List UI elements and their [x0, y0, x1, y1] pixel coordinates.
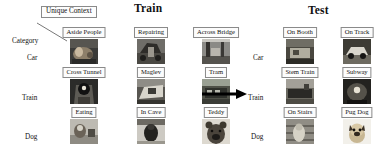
- dog-pug-dog-photo[interactable]: [343, 119, 371, 144]
- train-cell-label: Cross Tunnel: [63, 67, 106, 78]
- car-on-track-photo[interactable]: [343, 39, 371, 64]
- train-maglev-photo[interactable]: [137, 79, 165, 104]
- test-row-label-dog: Dog: [251, 133, 263, 141]
- train-section-title: Train: [134, 2, 162, 14]
- train-cell-label: Maglev: [137, 67, 165, 78]
- test-cell-label: Stem Train: [281, 67, 318, 78]
- train-subway-photo[interactable]: [343, 79, 371, 104]
- dog-teddy-photo[interactable]: [202, 119, 230, 144]
- test-row-label-car: Car: [253, 54, 263, 62]
- test-cell-label: On Track: [341, 27, 374, 38]
- train-cell-label: Tram: [205, 67, 227, 78]
- train-cell-label: In Cave: [137, 107, 166, 118]
- train-cell-label: Aside People: [63, 27, 106, 38]
- car-repairing-photo[interactable]: [137, 39, 165, 64]
- test-cell-label: Pug Dog: [341, 107, 372, 118]
- train-cell-label: Across Bridge: [193, 27, 239, 38]
- train-cell-label: Eating: [71, 107, 96, 118]
- train-row-label-dog: Dog: [25, 133, 37, 141]
- figure-canvas: Train Test Unique Context Category Car T…: [0, 0, 383, 163]
- train-cross-tunnel-photo[interactable]: [70, 79, 98, 104]
- test-section-title: Test: [308, 4, 329, 16]
- train-cell-label: Teddy: [204, 107, 228, 118]
- test-cell-label: On Booth: [283, 27, 317, 38]
- car-aside-people-photo[interactable]: [70, 39, 98, 64]
- train-cell-label: Repairing: [134, 27, 168, 38]
- test-cell-label: Subway: [342, 67, 371, 78]
- train-to-test-arrow: [202, 88, 248, 100]
- dog-eating-photo[interactable]: [70, 119, 98, 144]
- test-cell-label: On Stairs: [284, 107, 317, 118]
- unique-context-callout: Unique Context: [41, 6, 97, 18]
- train-stem-train-photo[interactable]: [286, 79, 314, 104]
- train-row-label-train: Train: [22, 94, 37, 102]
- dog-in-cave-photo[interactable]: [137, 119, 165, 144]
- category-axis-label: Category: [12, 37, 38, 45]
- car-on-booth-photo[interactable]: [286, 39, 314, 64]
- train-row-label-car: Car: [27, 54, 37, 62]
- car-across-bridge-photo[interactable]: [202, 39, 230, 64]
- test-row-label-train: Train: [248, 94, 263, 102]
- dog-on-stairs-photo[interactable]: [286, 119, 314, 144]
